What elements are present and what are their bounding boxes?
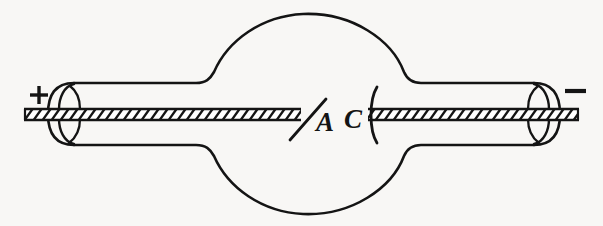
left-electrode-rod <box>24 109 301 120</box>
right-cap-crescent-upper <box>528 86 538 109</box>
right-cap-crescent-lower <box>528 119 539 143</box>
positive-terminal-marker <box>30 86 48 104</box>
glass-upper-outline <box>74 14 534 83</box>
cathode-label: C <box>344 104 363 134</box>
discharge-tube-figure: A C + − Spherical glass bulb with cylind… <box>0 0 603 226</box>
anode-label: A <box>314 107 334 137</box>
right-rod-hatching <box>368 110 579 120</box>
right-electrode-rod <box>368 109 580 120</box>
discharge-tube-svg: A C <box>0 0 603 226</box>
left-cap-crescent-lower <box>69 119 80 143</box>
glass-lower-outline <box>74 145 534 214</box>
left-rod-hatching <box>24 110 301 120</box>
left-cap-crescent-upper <box>70 86 80 109</box>
